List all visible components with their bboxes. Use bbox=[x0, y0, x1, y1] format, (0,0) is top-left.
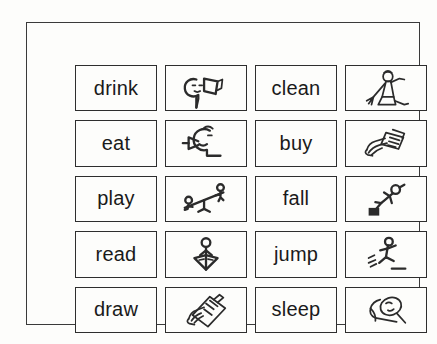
picture-card-sleep[interactable] bbox=[345, 287, 427, 333]
picture-card-clean[interactable] bbox=[345, 65, 427, 111]
person-sweeping-with-broom-icon bbox=[346, 66, 426, 110]
picture-card-eat[interactable] bbox=[165, 120, 247, 166]
word-card-jump[interactable]: jump bbox=[255, 231, 337, 277]
picture-card-draw[interactable] bbox=[165, 287, 247, 333]
word-card-fall[interactable]: fall bbox=[255, 176, 337, 222]
word-card-buy[interactable]: buy bbox=[255, 120, 337, 166]
picture-card-drink[interactable] bbox=[165, 65, 247, 111]
picture-card-fall[interactable] bbox=[345, 176, 427, 222]
word-card-clean[interactable]: clean bbox=[255, 65, 337, 111]
word-card-draw[interactable]: draw bbox=[75, 287, 157, 333]
picture-card-play[interactable] bbox=[165, 176, 247, 222]
head-drinking-from-cup-icon bbox=[166, 66, 246, 110]
figure-jumping-over-line-icon bbox=[346, 232, 426, 276]
hand-drawing-on-paper-icon bbox=[166, 288, 246, 332]
word-card-play[interactable]: play bbox=[75, 176, 157, 222]
word-card-drink[interactable]: drink bbox=[75, 65, 157, 111]
verb-card-grid: drink clean bbox=[75, 65, 427, 333]
word-card-read[interactable]: read bbox=[75, 231, 157, 277]
picture-card-buy[interactable] bbox=[345, 120, 427, 166]
head-on-pillow-icon bbox=[346, 288, 426, 332]
head-eating-with-spoon-icon bbox=[166, 121, 246, 165]
figure-tripping-over-block-icon bbox=[346, 177, 426, 221]
two-figures-on-seesaw-icon bbox=[166, 177, 246, 221]
picture-card-read[interactable] bbox=[165, 231, 247, 277]
picture-card-jump[interactable] bbox=[345, 231, 427, 277]
figure-reading-open-book-icon bbox=[166, 232, 246, 276]
word-card-sleep[interactable]: sleep bbox=[255, 287, 337, 333]
word-card-eat[interactable]: eat bbox=[75, 120, 157, 166]
worksheet-frame: drink clean bbox=[26, 22, 420, 325]
hand-holding-money-icon bbox=[346, 121, 426, 165]
worksheet-sheet: drink clean bbox=[0, 0, 437, 344]
